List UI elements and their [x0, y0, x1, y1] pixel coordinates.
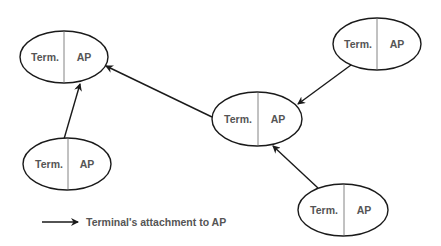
- edge-center-to-top-left: [106, 66, 212, 117]
- node-bottom-left: Term. AP: [23, 138, 111, 190]
- terminal-label: Term.: [224, 113, 252, 125]
- terminal-label: Term.: [35, 158, 63, 170]
- ap-label: AP: [271, 113, 286, 125]
- legend-label: Terminal's attachment to AP: [86, 216, 226, 228]
- ap-label: AP: [390, 38, 405, 50]
- node-top-left: Term. AP: [20, 31, 108, 83]
- edge-top-right-to-center: [298, 65, 351, 104]
- terminal-label: Term.: [344, 38, 372, 50]
- terminal-label: Term.: [310, 204, 338, 216]
- terminal-label: Term.: [31, 51, 59, 63]
- node-center: Term. AP: [212, 92, 302, 146]
- edge-bottom-left-to-top-left: [64, 84, 80, 139]
- edge-bottom-right-to-center: [273, 146, 318, 188]
- ap-label: AP: [77, 51, 92, 63]
- ap-label: AP: [357, 204, 372, 216]
- ap-label: AP: [80, 158, 95, 170]
- attachment-diagram: Term. AP Term. AP Term. AP Term. AP Term…: [0, 0, 441, 246]
- node-top-right: Term. AP: [333, 18, 421, 70]
- legend: Terminal's attachment to AP: [42, 216, 226, 228]
- node-bottom-right: Term. AP: [298, 184, 388, 236]
